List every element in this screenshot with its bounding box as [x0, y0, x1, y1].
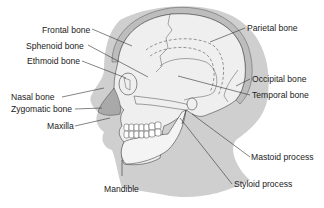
label-mastoid-process: Mastoid process: [251, 152, 314, 162]
label-parietal-bone: Parietal bone: [247, 23, 298, 33]
label-styloid-process: Styloid process: [234, 179, 292, 189]
label-zygomatic-bone: Zygomatic bone: [11, 104, 72, 114]
ear-canal: [187, 98, 197, 110]
label-ethmoid-bone: Ethmoid bone: [27, 56, 80, 66]
label-maxilla: Maxilla: [47, 121, 74, 131]
label-nasal-bone: Nasal bone: [11, 92, 54, 102]
skull-diagram: Frontal bone Sphenoid bone Ethmoid bone …: [0, 0, 324, 208]
label-occipital-bone: Occipital bone: [252, 74, 306, 84]
label-mandible: Mandible: [104, 184, 139, 194]
label-sphenoid-bone: Sphenoid bone: [26, 41, 84, 51]
label-temporal-bone: Temporal bone: [252, 90, 309, 100]
label-frontal-bone: Frontal bone: [42, 25, 90, 35]
